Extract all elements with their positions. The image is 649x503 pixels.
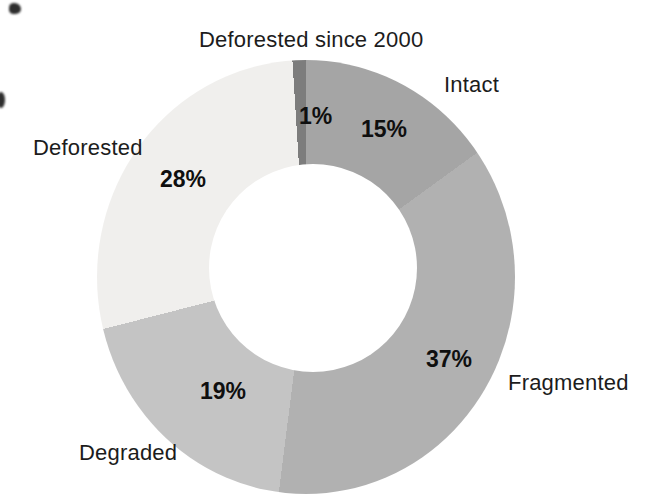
scan-artifact-left-edge [0,92,5,108]
segment-value-deforested: 28% [160,166,206,193]
segment-value-intact: 15% [361,116,407,143]
segment-value-degraded: 19% [200,378,246,405]
segment-label-deforested: Deforested [33,135,143,161]
segment-label-degraded: Degraded [79,440,177,466]
segment-label-deforested-since-2000: Deforested since 2000 [199,27,423,53]
donut-hole [209,164,417,372]
segment-value-deforested-since-2000: 1% [299,103,332,130]
donut-chart-figure: Deforested since 2000 Intact Fragmented … [0,0,649,503]
scan-artifact-top-left [9,3,21,14]
segment-value-fragmented: 37% [426,346,472,373]
segment-label-fragmented: Fragmented [508,370,629,396]
segment-label-intact: Intact [444,72,499,98]
